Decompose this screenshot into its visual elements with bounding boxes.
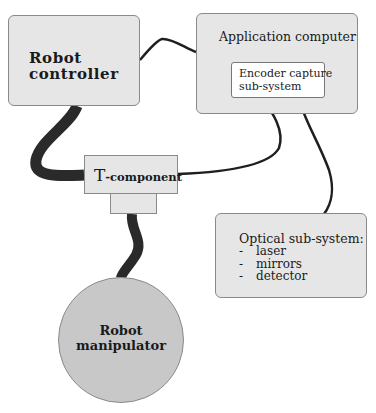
t-component-label-small: -component [105, 170, 182, 184]
t-component-label: T-component [94, 165, 182, 185]
robot-manipulator-label: Robot manipulator [59, 323, 183, 353]
robot-controller-line2: controller [29, 66, 119, 82]
encoder-capture-subsystem-box: Encoder capture sub-system [231, 62, 325, 98]
optical-subsystem-list: -laser -mirrors -detector [239, 245, 307, 283]
encoder-capture-label: Encoder capture sub-system [239, 67, 332, 93]
list-dash: - [239, 245, 256, 258]
robot-manipulator-line2: manipulator [59, 338, 183, 353]
cable-encoder-to-optical [299, 98, 332, 214]
cable-tcomponent-to-manipulator [121, 214, 138, 278]
robot-controller-box: Robot controller [8, 15, 140, 106]
robot-manipulator-line1: Robot [59, 323, 183, 338]
t-component-stem [110, 193, 157, 214]
optical-item-label: detector [256, 269, 307, 283]
application-computer-label: Application computer [219, 29, 356, 44]
encoder-capture-line2: sub-system [239, 80, 332, 93]
t-component-label-big: T [94, 165, 105, 185]
robot-controller-line1: Robot [29, 50, 119, 66]
t-component-box: T-component [84, 155, 178, 194]
optical-item-detector: -detector [239, 270, 307, 283]
robot-controller-label: Robot controller [29, 50, 119, 82]
list-dash: - [239, 270, 256, 283]
robot-manipulator-circle: Robot manipulator [58, 277, 184, 403]
encoder-capture-line1: Encoder capture [239, 67, 332, 80]
cable-controller-to-tcomponent [36, 106, 84, 176]
cable-controller-to-computer [140, 39, 196, 60]
optical-subsystem-box: Optical sub-system: -laser -mirrors -det… [215, 213, 367, 298]
